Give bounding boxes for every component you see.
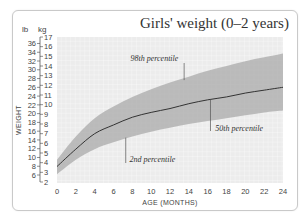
svg-text:2: 2 <box>44 178 48 187</box>
svg-text:16: 16 <box>203 187 211 196</box>
svg-text:16: 16 <box>28 127 36 136</box>
svg-text:8: 8 <box>130 187 134 196</box>
svg-text:18: 18 <box>222 187 230 196</box>
svg-text:34: 34 <box>28 48 36 57</box>
svg-text:15: 15 <box>44 52 52 61</box>
svg-text:18: 18 <box>28 118 36 127</box>
svg-text:28: 28 <box>28 74 36 83</box>
svg-text:8: 8 <box>32 162 36 171</box>
svg-text:6: 6 <box>44 139 48 148</box>
svg-text:24: 24 <box>28 92 36 101</box>
svg-text:13: 13 <box>44 71 52 80</box>
svg-text:36: 36 <box>28 39 36 48</box>
svg-text:26: 26 <box>28 83 36 92</box>
svg-text:12: 12 <box>44 81 52 90</box>
svg-text:17: 17 <box>44 33 52 42</box>
svg-text:22: 22 <box>28 101 36 110</box>
svg-text:32: 32 <box>28 57 36 66</box>
growth-chart: 98th percentile50th percentile2nd percen… <box>0 0 307 218</box>
svg-text:12: 12 <box>28 144 36 153</box>
svg-text:11: 11 <box>44 91 52 100</box>
svg-text:20: 20 <box>28 109 36 118</box>
svg-text:20: 20 <box>241 187 249 196</box>
svg-text:5: 5 <box>44 149 48 158</box>
svg-text:14: 14 <box>185 187 193 196</box>
svg-text:10: 10 <box>28 153 36 162</box>
svg-text:lb: lb <box>22 25 29 34</box>
svg-text:2nd percentile: 2nd percentile <box>130 155 176 164</box>
svg-text:6: 6 <box>111 187 115 196</box>
svg-text:14: 14 <box>28 136 36 145</box>
svg-text:98th percentile: 98th percentile <box>130 54 178 63</box>
svg-text:WEIGHT: WEIGHT <box>15 105 22 135</box>
svg-text:4: 4 <box>44 158 48 167</box>
svg-text:AGE (MONTHS): AGE (MONTHS) <box>142 199 197 207</box>
svg-text:12: 12 <box>166 187 174 196</box>
svg-text:14: 14 <box>44 62 52 71</box>
svg-text:10: 10 <box>147 187 155 196</box>
svg-text:3: 3 <box>44 168 48 177</box>
svg-text:50th percentile: 50th percentile <box>215 124 263 133</box>
svg-text:2: 2 <box>74 187 78 196</box>
svg-text:8: 8 <box>44 120 48 129</box>
svg-text:10: 10 <box>44 100 52 109</box>
svg-text:22: 22 <box>260 187 268 196</box>
svg-text:6: 6 <box>32 171 36 180</box>
svg-text:16: 16 <box>44 42 52 51</box>
svg-text:24: 24 <box>279 187 287 196</box>
svg-text:4: 4 <box>93 187 97 196</box>
svg-text:7: 7 <box>44 129 48 138</box>
svg-text:9: 9 <box>44 110 48 119</box>
svg-text:0: 0 <box>55 187 59 196</box>
svg-text:30: 30 <box>28 65 36 74</box>
